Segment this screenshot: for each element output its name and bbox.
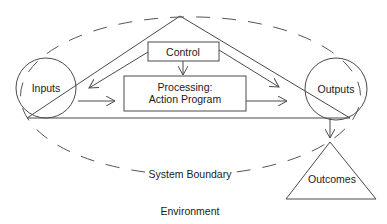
system-diagram: Inputs Outputs Control Processing: Actio… [0,0,387,224]
diagram-canvas: Inputs Outputs Control Processing: Actio… [0,0,387,224]
processing-label-line2: Action Program [149,93,222,105]
arrow-control-to-outputs [219,50,279,87]
system-boundary-label: System Boundary [149,168,233,180]
outputs-label: Outputs [318,83,355,95]
processing-label-line1: Processing: [158,81,213,93]
outcomes-triangle [286,142,376,199]
outcomes-label: Outcomes [308,173,356,185]
control-label: Control [166,46,200,58]
environment-label: Environment [161,205,220,217]
inputs-label: Inputs [32,82,61,94]
